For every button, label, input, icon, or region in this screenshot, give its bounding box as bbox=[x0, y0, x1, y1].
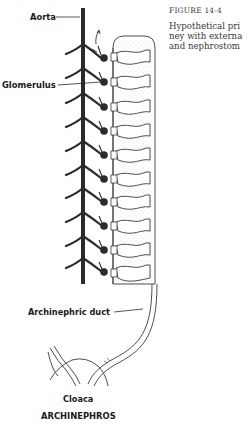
tubule-10 bbox=[116, 265, 150, 281]
tubule-3 bbox=[116, 100, 150, 114]
tubule-9 bbox=[116, 243, 150, 257]
glomerulus-8 bbox=[99, 216, 107, 229]
diagram-title: ARCHINEPHROS bbox=[41, 411, 116, 421]
cloaca bbox=[48, 346, 108, 386]
tubule-1 bbox=[116, 50, 150, 64]
glomerulus-10 bbox=[99, 262, 107, 275]
glomerulus-7 bbox=[99, 192, 107, 205]
cloaca-label: Cloaca bbox=[63, 394, 93, 404]
glomerulus-3 bbox=[99, 97, 107, 110]
glomerulus-2 bbox=[99, 72, 107, 85]
archinephric-duct bbox=[88, 284, 157, 386]
glomerulus-label: Glomerulus bbox=[2, 80, 56, 90]
glomerulus-4 bbox=[99, 121, 107, 134]
archinephros-diagram: Aorta Glomerulus Archinephric duct Cloac… bbox=[0, 0, 249, 425]
glomerulus-9 bbox=[99, 240, 107, 253]
glomerulus-5 bbox=[99, 145, 107, 158]
tubule-7 bbox=[116, 195, 150, 209]
tubule-4 bbox=[116, 124, 150, 138]
archinephric-duct-label: Archinephric duct bbox=[28, 307, 110, 317]
glomerulus-6 bbox=[99, 169, 107, 182]
glomerulus-1 bbox=[98, 46, 107, 61]
aorta-label: Aorta bbox=[30, 12, 56, 22]
tubule-5 bbox=[116, 148, 150, 162]
tubule-8 bbox=[116, 219, 150, 233]
tubule-2 bbox=[116, 75, 150, 89]
tubule-6 bbox=[116, 172, 150, 186]
